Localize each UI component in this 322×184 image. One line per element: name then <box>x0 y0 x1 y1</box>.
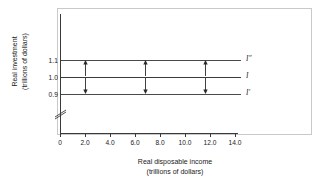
y-tick-label-2: 1.0 <box>49 74 58 81</box>
x-tick-7 <box>235 133 236 137</box>
y-tick-label-1: 1.1 <box>49 57 58 64</box>
investment-line-label-i-prime: I′ <box>246 89 250 97</box>
shift-arrow-down-icon <box>141 77 150 94</box>
investment-function-chart: 1.1 1.0 0.9 0 2.0 4.0 6.0 8.0 10.0 12.0 … <box>0 0 322 184</box>
y-axis-break-icon <box>53 106 69 122</box>
x-tick-label-2: 4.0 <box>98 139 122 146</box>
shift-arrow-up-icon <box>201 60 210 77</box>
x-tick-0 <box>60 133 61 137</box>
x-axis-title-line-2: (trillions of dollars) <box>100 167 250 177</box>
shift-arrow-up-icon <box>81 60 90 77</box>
x-tick-label-7: 14.0 <box>223 139 247 146</box>
y-axis-title: Real investment (trillions of dollars) <box>10 3 29 121</box>
shift-arrow-up-icon <box>141 60 150 77</box>
x-tick-label-4: 8.0 <box>148 139 172 146</box>
x-tick-5 <box>185 133 186 137</box>
shift-arrow-down-icon <box>81 77 90 94</box>
x-tick-4 <box>160 133 161 137</box>
y-tick-label-3: 0.9 <box>49 91 58 98</box>
y-axis-title-line-1: Real investment <box>10 3 20 121</box>
x-tick-label-5: 10.0 <box>173 139 197 146</box>
x-tick-label-3: 6.0 <box>123 139 147 146</box>
x-tick-6 <box>210 133 211 137</box>
x-tick-1 <box>85 133 86 137</box>
x-tick-label-6: 12.0 <box>198 139 222 146</box>
y-axis-title-line-2: (trillions of dollars) <box>19 3 29 121</box>
x-tick-2 <box>110 133 111 137</box>
x-tick-3 <box>135 133 136 137</box>
investment-line-i-prime <box>61 94 241 95</box>
investment-line-label-i: I <box>246 72 248 80</box>
x-axis <box>60 133 238 134</box>
x-axis-title-line-1: Real disposable income <box>100 157 250 167</box>
investment-line-label-i-double-prime: I″ <box>246 55 251 63</box>
plot-frame <box>57 8 312 135</box>
x-tick-label-0: 0 <box>48 139 72 146</box>
x-axis-title: Real disposable income (trillions of dol… <box>100 157 250 176</box>
shift-arrow-down-icon <box>201 77 210 94</box>
x-tick-label-1: 2.0 <box>73 139 97 146</box>
